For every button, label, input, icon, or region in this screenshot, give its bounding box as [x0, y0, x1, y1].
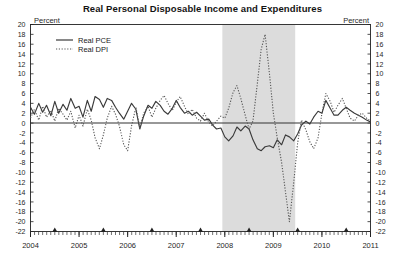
svg-text:-4: -4: [19, 139, 25, 146]
svg-text:12: 12: [376, 61, 384, 68]
svg-text:2007: 2007: [168, 241, 185, 250]
y-axis-ticks: 2020181816161414121210108866442200-2-2-4…: [15, 21, 385, 235]
chart-legend: Real PCEReal DPI: [56, 36, 111, 54]
svg-text:18: 18: [376, 31, 384, 38]
svg-text:-4: -4: [376, 139, 382, 146]
recession-shading-layer: [222, 25, 295, 232]
svg-text:-12: -12: [15, 179, 25, 186]
svg-text:10: 10: [376, 70, 384, 77]
svg-text:-16: -16: [15, 199, 25, 206]
svg-text:-6: -6: [376, 149, 382, 156]
svg-text:2009: 2009: [265, 241, 282, 250]
svg-text:-22: -22: [376, 228, 386, 235]
svg-text:8: 8: [376, 80, 380, 87]
legend-label: Real DPI: [78, 45, 108, 54]
svg-text:16: 16: [18, 41, 26, 48]
svg-text:-8: -8: [19, 159, 25, 166]
legend-label: Real PCE: [78, 36, 111, 45]
y-axis-unit-right: Percent: [343, 16, 369, 25]
svg-text:10: 10: [18, 70, 26, 77]
svg-text:-16: -16: [376, 199, 386, 206]
chart-container: Real Personal Disposable Income and Expe…: [0, 0, 405, 257]
svg-text:0: 0: [22, 120, 26, 127]
svg-text:14: 14: [18, 51, 26, 58]
svg-text:2: 2: [376, 110, 380, 117]
svg-text:-12: -12: [376, 179, 386, 186]
svg-text:-22: -22: [15, 228, 25, 235]
svg-text:4: 4: [376, 100, 380, 107]
x-axis-ticks: 20042005200620072008200920102011: [22, 228, 378, 250]
svg-text:20: 20: [18, 21, 26, 28]
plot-frame: [31, 25, 371, 232]
svg-text:16: 16: [376, 41, 384, 48]
y-axis-unit-left: Percent: [34, 16, 60, 25]
svg-text:-10: -10: [376, 169, 386, 176]
svg-text:0: 0: [376, 120, 380, 127]
svg-text:-2: -2: [19, 130, 25, 137]
svg-text:-18: -18: [15, 208, 25, 215]
svg-text:12: 12: [18, 61, 26, 68]
svg-text:8: 8: [22, 80, 26, 87]
svg-text:-18: -18: [376, 208, 386, 215]
svg-text:2008: 2008: [216, 241, 233, 250]
svg-text:-6: -6: [19, 149, 25, 156]
svg-text:-20: -20: [15, 218, 25, 225]
svg-text:2005: 2005: [71, 241, 88, 250]
svg-text:20: 20: [376, 21, 384, 28]
svg-text:-14: -14: [15, 189, 25, 196]
svg-text:14: 14: [376, 51, 384, 58]
svg-text:6: 6: [376, 90, 380, 97]
svg-text:2006: 2006: [119, 241, 136, 250]
svg-text:6: 6: [22, 90, 26, 97]
chart-title: Real Personal Disposable Income and Expe…: [0, 3, 405, 14]
svg-text:-10: -10: [15, 169, 25, 176]
svg-text:4: 4: [22, 100, 26, 107]
svg-text:2: 2: [22, 110, 26, 117]
svg-text:2004: 2004: [22, 241, 39, 250]
svg-text:2011: 2011: [362, 241, 378, 250]
series-line: [31, 34, 371, 221]
svg-text:2010: 2010: [314, 241, 331, 250]
data-series-layer: [31, 34, 371, 221]
svg-text:-14: -14: [376, 189, 386, 196]
svg-text:18: 18: [18, 31, 26, 38]
svg-text:-20: -20: [376, 218, 386, 225]
svg-text:-2: -2: [376, 130, 382, 137]
svg-text:-8: -8: [376, 159, 382, 166]
chart-plot: 2020181816161414121210108866442200-2-2-4…: [0, 0, 405, 257]
